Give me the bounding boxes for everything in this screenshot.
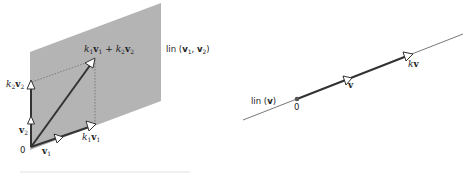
left-figure: k1v1 + k2v2 lin (v1, v2) k2v2 v2 k1v1 v1… — [6, 3, 210, 172]
label-kv: kv — [408, 59, 419, 69]
label-lin-v: lin (v) — [251, 96, 276, 106]
right-figure: lin (v) 0 v kv — [243, 34, 463, 120]
label-k1v1: k1v1 — [82, 132, 100, 143]
label-v1: v1 — [41, 146, 51, 157]
diagram-canvas: k1v1 + k2v2 lin (v1, v2) k2v2 v2 k1v1 v1… — [0, 0, 467, 174]
label-origin-right: 0 — [294, 102, 299, 112]
label-v2: v2 — [18, 125, 28, 136]
plane-lin-v1-v2 — [30, 3, 161, 150]
label-k2v2: k2v2 — [6, 79, 25, 90]
label-v: v — [347, 80, 354, 90]
label-lin-v1-v2: lin (v1, v2) — [166, 44, 210, 55]
label-origin-left: 0 — [20, 145, 25, 155]
origin-dot — [295, 97, 300, 102]
